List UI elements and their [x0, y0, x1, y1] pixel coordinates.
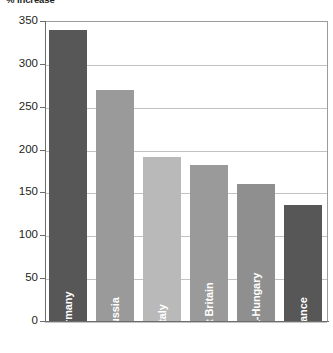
y-axis-tick-label: 200	[4, 144, 38, 156]
bar-label-text: Great Britain	[203, 282, 215, 321]
y-axis-tick	[40, 321, 45, 322]
bar-label-text: Germany	[62, 292, 74, 322]
x-axis-line	[45, 321, 329, 322]
y-axis: 350300250200150100500	[0, 0, 38, 353]
bar: Austria-Hungary	[237, 184, 275, 321]
bar-label: Germany	[56, 292, 68, 322]
bar-label-text: Russia	[109, 297, 121, 321]
y-axis-tick	[40, 21, 45, 22]
bar-label-text: Italy	[156, 304, 168, 321]
bar-label: Austria-Hungary	[244, 273, 256, 321]
y-axis-tick-label: 0	[4, 315, 38, 327]
bar-label-text: Austria-Hungary	[250, 273, 262, 321]
gridline	[45, 322, 327, 323]
y-axis-tick	[40, 235, 45, 236]
bar: Great Britain	[190, 165, 228, 321]
y-axis-tick-label: 250	[4, 101, 38, 113]
bar: France	[284, 205, 322, 321]
y-axis-tick-label: 300	[4, 58, 38, 70]
bar-label: Great Britain	[197, 282, 209, 321]
bar: Germany	[49, 30, 87, 321]
y-axis-tick-label: 150	[4, 187, 38, 199]
bar: Russia	[96, 90, 134, 321]
y-axis-tick	[40, 150, 45, 151]
bar-label-text: France	[297, 297, 309, 321]
y-axis-tick	[40, 107, 45, 108]
bar-label: France	[291, 297, 303, 321]
bar-label: Italy	[150, 304, 162, 321]
y-axis-tick	[40, 64, 45, 65]
y-axis-tick	[40, 278, 45, 279]
bars-layer: GermanyRussiaItalyGreat BritainAustria-H…	[46, 21, 329, 321]
bar: Italy	[143, 157, 181, 321]
bar-chart: % Increase 350300250200150100500 Germany…	[0, 0, 333, 353]
bar-label: Russia	[103, 297, 115, 321]
y-axis-tick	[40, 192, 45, 193]
y-axis-tick-label: 100	[4, 230, 38, 242]
y-axis-tick-label: 50	[4, 272, 38, 284]
y-axis-tick-label: 350	[4, 15, 38, 27]
